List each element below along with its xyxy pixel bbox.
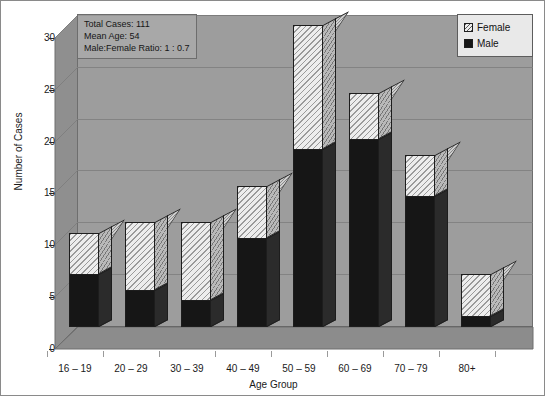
legend-item-male[interactable]: Male xyxy=(464,38,524,49)
bar-right-face-female xyxy=(211,215,224,300)
x-tick-mark-4 xyxy=(271,351,272,357)
x-tick-mark-3 xyxy=(215,351,216,357)
bar-80plus[interactable] xyxy=(461,15,491,349)
bar-30-39[interactable] xyxy=(181,15,211,349)
bar-segment-male xyxy=(237,238,267,327)
y-axis: 0 5 10 15 20 25 30 xyxy=(1,1,55,349)
bar-segment-female xyxy=(237,186,267,239)
x-tick-label-30-39: 30 – 39 xyxy=(157,363,217,374)
annotation-sex-ratio: Male:Female Ratio: 1 : 0.7 xyxy=(84,42,190,54)
y-tick-mark-25 xyxy=(49,90,54,91)
bar-segment-male xyxy=(349,139,379,327)
chart-container: 0 5 10 15 20 25 30 Number of Cases 16 – … xyxy=(0,0,545,396)
x-tick-label-16-19: 16 – 19 xyxy=(45,363,105,374)
x-tick-label-40-49: 40 – 49 xyxy=(213,363,273,374)
y-axis-label: Number of Cases xyxy=(13,97,24,207)
bar-right-face-male xyxy=(379,132,392,327)
bar-right-face-female xyxy=(323,18,336,149)
bar-50-59[interactable] xyxy=(293,15,323,349)
bar-right-face-male xyxy=(211,293,224,327)
legend-item-female[interactable]: Female xyxy=(464,22,524,33)
bar-60-69[interactable] xyxy=(349,15,379,349)
bar-segment-female xyxy=(405,155,435,197)
bar-segment-female xyxy=(349,93,379,140)
x-tick-mark-7 xyxy=(439,351,440,357)
x-tick-mark-6 xyxy=(383,351,384,357)
annotation-total-cases: Total Cases: 111 xyxy=(84,18,190,30)
annotation-mean-age: Mean Age: 54 xyxy=(84,30,190,42)
bar-segment-female xyxy=(461,274,491,317)
x-tick-mark-1 xyxy=(103,351,104,357)
bar-right-face-male xyxy=(99,267,112,327)
x-tick-mark-5 xyxy=(327,351,328,357)
bar-segment-male xyxy=(69,274,99,327)
summary-annotation: Total Cases: 111 Mean Age: 54 Male:Femal… xyxy=(77,14,197,59)
x-tick-label-70-79: 70 – 79 xyxy=(381,363,441,374)
y-tick-mark-20 xyxy=(49,142,54,143)
bar-right-face-male xyxy=(267,231,280,327)
y-tick-mark-30 xyxy=(49,38,54,39)
bar-segment-female xyxy=(293,25,323,150)
x-tick-label-50-59: 50 – 59 xyxy=(269,363,329,374)
bar-right-face-male xyxy=(155,283,168,327)
bar-16-19[interactable] xyxy=(69,15,99,349)
bar-segment-male xyxy=(125,290,155,327)
x-tick-mark-0 xyxy=(47,351,48,357)
legend-swatch-male-icon xyxy=(464,39,473,48)
legend-swatch-female-icon xyxy=(464,23,473,32)
x-tick-label-80plus: 80+ xyxy=(437,363,497,374)
bar-40-49[interactable] xyxy=(237,15,267,349)
legend-label-female: Female xyxy=(477,22,510,33)
bar-segment-female xyxy=(69,233,99,275)
bar-series-group xyxy=(55,15,533,349)
legend: Female Male xyxy=(457,14,533,57)
x-tick-mark-8 xyxy=(495,351,496,357)
x-tick-label-20-29: 20 – 29 xyxy=(101,363,161,374)
x-tick-label-60-69: 60 – 69 xyxy=(325,363,385,374)
y-tick-mark-5 xyxy=(49,297,54,298)
y-tick-mark-0 xyxy=(49,349,54,350)
x-tick-mark-2 xyxy=(159,351,160,357)
y-tick-mark-15 xyxy=(49,193,54,194)
bar-20-29[interactable] xyxy=(125,15,155,349)
bar-right-face-female xyxy=(155,215,168,290)
bar-segment-female xyxy=(181,222,211,301)
bar-70-79[interactable] xyxy=(405,15,435,349)
bar-segment-male xyxy=(461,316,491,327)
bar-right-face-male xyxy=(435,189,448,327)
bar-right-face-female xyxy=(379,86,392,139)
bar-right-face-male xyxy=(323,142,336,327)
bar-segment-female xyxy=(125,222,155,291)
bar-segment-male xyxy=(181,300,211,327)
y-tick-mark-10 xyxy=(49,245,54,246)
bar-segment-male xyxy=(293,149,323,327)
bar-segment-male xyxy=(405,196,435,327)
x-axis-label: Age Group xyxy=(1,379,545,390)
bar-right-face-female xyxy=(267,179,280,238)
plot-area xyxy=(55,15,533,349)
legend-label-male: Male xyxy=(477,38,499,49)
